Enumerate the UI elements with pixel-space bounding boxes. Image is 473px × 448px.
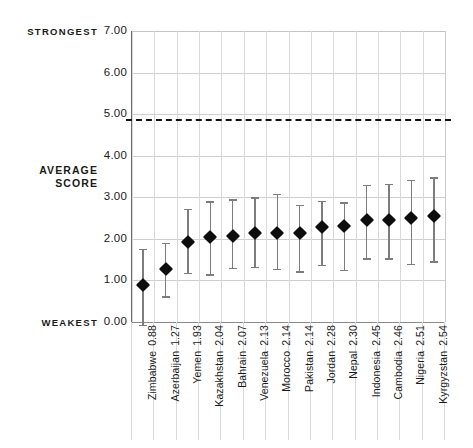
gridline-vertical (400, 31, 401, 322)
category-name: Zimbabwe (146, 351, 158, 400)
error-bar-cap-lower (318, 265, 326, 266)
error-bar-cap-upper (407, 180, 415, 181)
x-axis-category-label: Kyrgyzstan2.54 (437, 325, 449, 404)
gridline-vertical (199, 31, 200, 322)
gridline-vertical (266, 31, 267, 322)
error-bar-cap-lower (184, 273, 192, 274)
x-axis-category-label: Indonesia2.45 (370, 325, 382, 397)
gridline-vertical (244, 31, 245, 322)
category-value: 2.54 (437, 325, 449, 346)
gridline-vertical (356, 31, 357, 322)
error-bar-cap-upper (162, 243, 170, 244)
x-axis-category-label: Cambodia2.46 (392, 325, 404, 400)
chart-container: 7.006.005.004.003.002.001.000.00 STRONGE… (0, 0, 473, 448)
gridline-vertical (333, 31, 334, 322)
data-point-marker[interactable] (226, 229, 240, 243)
category-value: 2.07 (236, 325, 248, 346)
y-axis-tick-label: 4.00 (77, 149, 127, 161)
error-bar-cap-lower (162, 296, 170, 297)
gridline-vertical (423, 31, 424, 322)
gridline-vertical (311, 31, 312, 322)
category-value: 1.93 (191, 325, 203, 346)
error-bar-cap-upper (251, 197, 259, 198)
category-value: 2.14 (303, 325, 315, 346)
error-bar-cap-upper (139, 249, 147, 250)
category-value: 2.14 (280, 325, 292, 346)
y-axis: 7.006.005.004.003.002.001.000.00 (70, 0, 127, 448)
category-name: Jordan (325, 351, 337, 384)
error-bar-cap-lower (363, 258, 371, 259)
category-name: Kazakhstan (213, 351, 225, 407)
error-bar-cap-lower (430, 261, 438, 262)
axis-caption-average-score: AVERAGE SCORE (0, 164, 98, 190)
gridline-vertical (154, 31, 155, 322)
error-bar-cap-lower (229, 268, 237, 269)
category-name: Azerbaijan (169, 351, 181, 402)
data-point-marker[interactable] (337, 219, 351, 233)
error-bar-cap-lower (340, 270, 348, 271)
category-value: 2.28 (325, 325, 337, 346)
x-axis-category-label: Zimbabwe0.88 (146, 325, 158, 400)
category-value: 2.45 (370, 325, 382, 346)
data-point-marker[interactable] (158, 262, 172, 276)
x-axis-category-label: Azerbaijan1.27 (169, 325, 181, 401)
axis-caption-average-line2: SCORE (0, 177, 98, 190)
error-bar-cap-lower (407, 264, 415, 265)
axis-caption-weakest: WEAKEST (0, 317, 98, 328)
error-bar-cap-upper (206, 201, 214, 202)
x-axis-category-label: Pakistan2.14 (303, 325, 315, 392)
y-axis-tick-label: 3.00 (77, 190, 127, 202)
category-name: Pakistan (303, 351, 315, 392)
error-bar-line (344, 202, 345, 270)
category-name: Morocco (280, 351, 292, 392)
data-point-marker[interactable] (181, 235, 195, 249)
data-point-marker[interactable] (360, 213, 374, 227)
x-tick-divider (131, 322, 132, 440)
error-bar-cap-lower (296, 271, 304, 272)
error-bar-cap-upper (296, 205, 304, 206)
data-point-marker[interactable] (382, 213, 396, 227)
gridline-vertical (177, 31, 178, 322)
category-value: 2.13 (258, 325, 270, 346)
data-point-marker[interactable] (427, 209, 441, 223)
category-name: Bahrain (236, 351, 248, 388)
x-axis-category-label: Nepal2.30 (347, 325, 359, 379)
category-name: Indonesia (370, 351, 382, 397)
y-axis-tick-label: 2.00 (77, 232, 127, 244)
category-value: 2.46 (392, 325, 404, 346)
gridline-vertical (289, 31, 290, 322)
data-point-marker[interactable] (203, 230, 217, 244)
gridline-vertical (221, 31, 222, 322)
category-name: Nigeria (414, 351, 426, 385)
category-value: 2.04 (213, 325, 225, 346)
data-point-marker[interactable] (404, 211, 418, 225)
error-bar-cap-upper (363, 185, 371, 186)
gridline-vertical (132, 31, 133, 322)
error-bar-cap-upper (229, 199, 237, 200)
plot-area (131, 31, 444, 322)
category-name: Nepal (347, 351, 359, 379)
x-axis-category-label: Kazakhstan2.04 (213, 325, 225, 407)
axis-caption-strongest: STRONGEST (0, 26, 98, 37)
category-name: Yemen (191, 351, 203, 384)
axis-caption-average-line1: AVERAGE (0, 164, 98, 177)
gridline-vertical (445, 31, 446, 322)
category-name: Kyrgyzstan (437, 351, 449, 404)
error-bar-cap-lower (206, 274, 214, 275)
category-value: 0.88 (146, 325, 158, 346)
reference-line (126, 119, 451, 121)
error-bar-cap-lower (385, 258, 393, 259)
x-axis-category-label: Venezuela2.13 (258, 325, 270, 401)
gridline-vertical (378, 31, 379, 322)
category-value: 1.27 (169, 325, 181, 346)
error-bar-cap-lower (273, 269, 281, 270)
y-axis-tick-label: 6.00 (77, 66, 127, 78)
error-bar-cap-upper (184, 209, 192, 210)
category-value: 2.51 (414, 325, 426, 346)
error-bar-cap-upper (340, 202, 348, 203)
data-point-marker[interactable] (315, 220, 329, 234)
error-bar-cap-upper (430, 177, 438, 178)
x-axis-labels: Zimbabwe0.88Azerbaijan1.27Yemen1.93Kazak… (131, 322, 444, 448)
x-axis-category-label: Jordan2.28 (325, 325, 337, 384)
y-axis-tick-label: 1.00 (77, 273, 127, 285)
